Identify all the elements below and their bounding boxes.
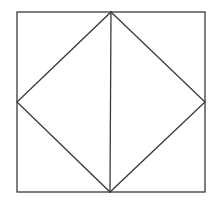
vertical-diagonal <box>110 12 111 192</box>
geometry-diagram <box>0 0 211 201</box>
